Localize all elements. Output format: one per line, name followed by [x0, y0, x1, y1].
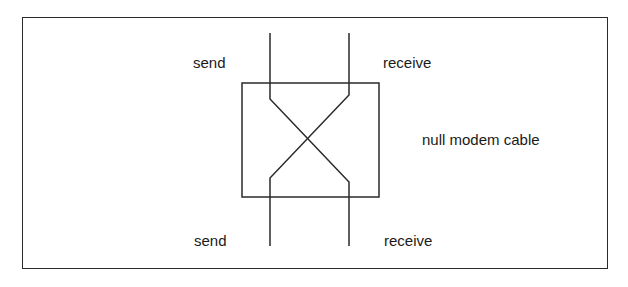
label-bottom-receive: receive: [384, 233, 432, 248]
label-bottom-send: send: [194, 233, 227, 248]
label-top-send: send: [193, 55, 226, 70]
label-null-modem-cable: null modem cable: [422, 132, 540, 147]
null-modem-cable-box: [242, 83, 379, 197]
wire-send-to-receive: [270, 33, 349, 246]
label-top-receive: receive: [383, 55, 431, 70]
